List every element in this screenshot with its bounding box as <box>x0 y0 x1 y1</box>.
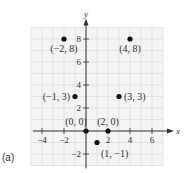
x-tick-label: −2 <box>59 135 69 145</box>
x-tick-label: 2 <box>106 135 111 145</box>
data-point <box>94 140 99 145</box>
y-tick-label: 2 <box>77 103 82 113</box>
data-label: (−2, 8) <box>50 43 77 55</box>
data-point <box>83 128 88 133</box>
y-axis-arrow <box>84 19 89 26</box>
y-tick-label: −2 <box>71 149 81 159</box>
x-axis-arrow <box>167 129 174 134</box>
data-label: (4, 8) <box>119 43 141 55</box>
scatter-chart: xy−4−2246−22468 (−2, 8)(4, 8)(−1, 3)(3, … <box>0 0 187 173</box>
data-label: (2, 0) <box>97 116 119 128</box>
x-tick-label: −4 <box>37 135 47 145</box>
data-point <box>61 36 66 41</box>
x-tick-label: 4 <box>128 135 133 145</box>
y-tick-label: 6 <box>77 57 82 67</box>
data-point <box>105 128 110 133</box>
x-tick-label: 6 <box>150 135 155 145</box>
data-label: (3, 3) <box>124 91 146 103</box>
y-tick-label: 4 <box>77 80 82 90</box>
data-point <box>127 36 132 41</box>
data-label: (−1, 3) <box>43 91 70 103</box>
data-label: (1, −1) <box>101 148 128 160</box>
data-label: (0, 0) <box>65 116 87 128</box>
y-axis-label: y <box>83 9 88 19</box>
data-point <box>72 94 77 99</box>
data-point <box>116 94 121 99</box>
panel-label: (a) <box>2 152 14 163</box>
x-axis-label: x <box>175 126 180 136</box>
